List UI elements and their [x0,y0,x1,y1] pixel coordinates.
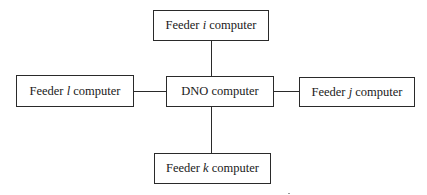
feeder-k-node: Feeder k computer [154,153,271,184]
feeder-k-label-prefix: Feeder [166,161,200,176]
dno-computer-node: DNO computer [166,76,274,107]
feeder-i-label-var: i [203,18,206,33]
feeder-j-label-prefix: Feeder [312,85,346,100]
feeder-k-label-suffix: computer [212,161,259,176]
feeder-i-label-prefix: Feeder [166,18,200,33]
edge-dno-feeder-l [133,91,166,92]
feeder-l-label-suffix: computer [73,84,120,99]
scan-artifact [288,193,290,194]
feeder-l-node: Feeder l computer [16,75,134,107]
dno-computer-label: DNO computer [181,84,258,99]
edge-dno-feeder-i [211,40,212,76]
feeder-j-label-suffix: computer [355,85,402,100]
feeder-l-label-prefix: Feeder [30,84,64,99]
edge-dno-feeder-j [273,91,299,92]
feeder-i-label-suffix: computer [209,18,256,33]
feeder-i-node: Feeder i computer [153,10,269,41]
feeder-j-label-var: j [349,85,352,100]
feeder-j-node: Feeder j computer [299,77,415,107]
feeder-k-label-var: k [203,161,209,176]
feeder-l-label-var: l [67,84,70,99]
edge-dno-feeder-k [211,106,212,153]
